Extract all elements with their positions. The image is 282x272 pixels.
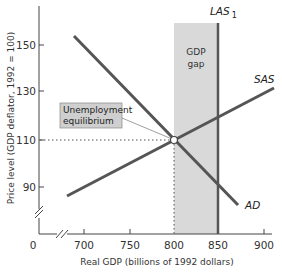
gap-label-line2: gap bbox=[188, 59, 205, 69]
chart: 150 130 110 90 0 700 750 800 850 900 Rea… bbox=[0, 0, 282, 272]
x-tick-label: 750 bbox=[120, 239, 140, 251]
y-axis-title: Price level (GDP deflator, 1992 = 100) bbox=[6, 32, 16, 205]
x-tick-label: 800 bbox=[164, 239, 184, 251]
ad-label: AD bbox=[244, 199, 260, 211]
origin-label: 0 bbox=[30, 239, 37, 251]
gap-label-line1: GDP bbox=[186, 47, 206, 57]
x-tick-label: 700 bbox=[74, 239, 94, 251]
callout-line1: Unemployment bbox=[63, 105, 133, 115]
las-label: LAS1 bbox=[210, 5, 237, 20]
sas-label: SAS bbox=[254, 73, 275, 85]
equilibrium-point bbox=[171, 137, 178, 144]
x-tick-label: 900 bbox=[254, 239, 274, 251]
y-tick-label: 110 bbox=[16, 134, 36, 146]
y-tick-label: 150 bbox=[16, 39, 36, 51]
x-axis-break-icon bbox=[56, 229, 68, 239]
callout-line2: equilibrium bbox=[63, 116, 114, 126]
x-axis-title: Real GDP (billions of 1992 dollars) bbox=[80, 257, 233, 267]
y-ticks: 150 130 110 90 bbox=[16, 39, 44, 193]
y-tick-label: 130 bbox=[16, 85, 36, 97]
y-tick-label: 90 bbox=[23, 181, 36, 193]
x-tick-label: 850 bbox=[208, 239, 228, 251]
